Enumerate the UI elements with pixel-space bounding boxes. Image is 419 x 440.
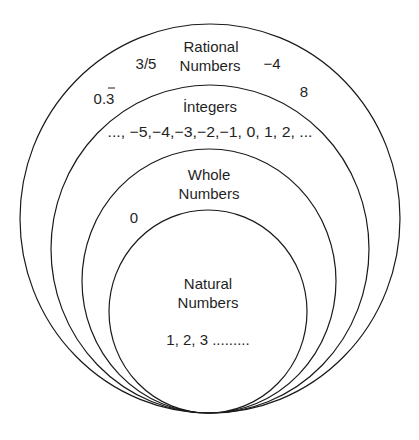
rational-label-line1: Rational [183,38,238,55]
rational-example-3-5: 3/5 [136,55,157,72]
rational-example-8: 8 [300,83,308,100]
integers-label: İntegers [183,98,237,115]
rational-example-0-3-repeating: 0.3 [94,90,115,107]
rational-label-line2: Numbers [180,57,241,74]
set-rational-numbers: Rational Numbers 3/5 −4 0.3 8 [20,24,400,413]
whole-label-line1: Whole [188,166,231,183]
set-natural-numbers: Natural Numbers 1, 2, 3 ......... [109,210,307,413]
whole-label-line2: Numbers [179,185,240,202]
set-integers: İntegers ..., −5,−4,−3,−2,−1, 0, 1, 2, .… [51,85,369,413]
number-sets-diagram: Rational Numbers 3/5 −4 0.3 8 İntegers .… [0,0,419,440]
natural-examples: 1, 2, 3 ......... [166,331,249,348]
natural-numbers-circle [109,210,307,413]
whole-example-0: 0 [130,209,138,226]
rational-example-repeating-decimal: 0.3 [94,88,115,107]
natural-label-line2: Numbers [178,294,239,311]
integers-examples: ..., −5,−4,−3,−2,−1, 0, 1, 2, ... [108,123,313,140]
rational-example-neg-4: −4 [263,55,280,72]
rational-numbers-circle [20,24,400,413]
natural-label-line1: Natural [184,275,232,292]
